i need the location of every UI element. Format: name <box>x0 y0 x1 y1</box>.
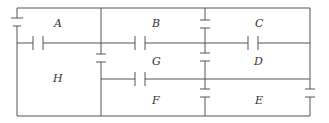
label-f: F <box>151 94 160 107</box>
battery-right <box>305 89 315 97</box>
circuit-diagram: A B C D E F G H <box>0 0 329 123</box>
label-b: B <box>151 17 160 30</box>
label-c: C <box>255 17 264 30</box>
label-h: H <box>52 72 63 85</box>
capacitor-c <box>248 36 258 50</box>
label-a: A <box>53 17 62 30</box>
capacitor-b <box>135 36 145 50</box>
vertical-wire-2 <box>200 8 210 116</box>
label-e: E <box>254 94 263 107</box>
label-d: D <box>253 55 263 68</box>
capacitor-g <box>135 72 145 86</box>
vertical-wire-1 <box>96 8 106 116</box>
capacitor-a <box>33 36 43 50</box>
battery-left <box>11 18 23 26</box>
label-g: G <box>152 55 161 68</box>
